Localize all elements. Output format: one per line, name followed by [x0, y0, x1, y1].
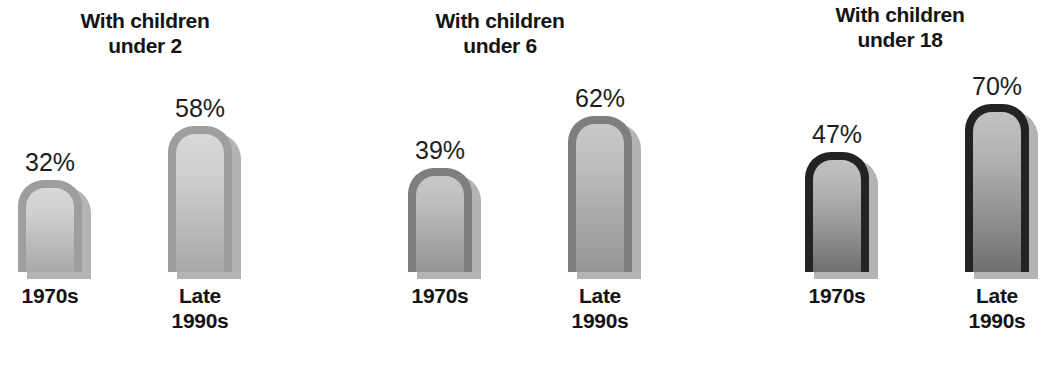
bar-slot-1970s-under-6: 39% — [408, 168, 472, 272]
period-label-1970s-under-18: 1970s — [762, 283, 912, 308]
bar-slot-late1990s-under-6: 62% — [568, 116, 632, 272]
bar-wrap — [805, 152, 869, 272]
bar-wrap — [568, 116, 632, 272]
bar-value-label-62: 62% — [575, 84, 625, 112]
bar-value-label-58: 58% — [175, 94, 225, 122]
bar-wrap — [965, 104, 1029, 272]
group-title-under-18: With children under 18 — [755, 2, 1045, 52]
bar-wrap — [408, 168, 472, 272]
chart-group-under-6: With children under 6 39% 1970s 62% Late… — [355, 0, 645, 367]
period-label-late1990s-under-6: Late 1990s — [525, 283, 675, 333]
chart-group-under-18: With children under 18 47% 1970s 70% Lat… — [755, 0, 1045, 367]
chart-group-under-2: With children under 2 32% 1970s 58% Late… — [0, 0, 290, 367]
bar-value-label-39: 39% — [415, 136, 465, 164]
bar-face — [576, 124, 624, 272]
bar-slot-late1990s-under-2: 58% — [168, 126, 232, 272]
bar-1970s-under-6[interactable] — [408, 168, 472, 272]
bar-late1990s-under-18[interactable] — [965, 104, 1029, 272]
bar-late1990s-under-6[interactable] — [568, 116, 632, 272]
bar-slot-1970s-under-18: 47% — [805, 152, 869, 272]
period-label-1970s-under-6: 1970s — [365, 283, 515, 308]
bar-slot-1970s-under-2: 32% — [18, 180, 82, 272]
bar-value-label-47: 47% — [812, 120, 862, 148]
bar-value-label-32: 32% — [25, 148, 75, 176]
group-title-under-2: With children under 2 — [0, 8, 290, 58]
bar-face — [176, 134, 224, 272]
bar-value-label-70: 70% — [972, 72, 1022, 100]
bar-1970s-under-18[interactable] — [805, 152, 869, 272]
bar-face — [973, 112, 1021, 272]
period-label-1970s-under-2: 1970s — [0, 283, 125, 308]
bar-face — [26, 188, 74, 272]
bar-1970s-under-2[interactable] — [18, 180, 82, 272]
bar-chart: With children under 2 32% 1970s 58% Late… — [0, 0, 1045, 367]
bar-wrap — [168, 126, 232, 272]
bar-late1990s-under-2[interactable] — [168, 126, 232, 272]
group-title-under-6: With children under 6 — [355, 8, 645, 58]
bar-face — [813, 160, 861, 272]
period-label-late1990s-under-18: Late 1990s — [922, 283, 1045, 333]
bar-wrap — [18, 180, 82, 272]
period-label-late1990s-under-2: Late 1990s — [125, 283, 275, 333]
bar-slot-late1990s-under-18: 70% — [965, 104, 1029, 272]
bar-face — [416, 176, 464, 272]
